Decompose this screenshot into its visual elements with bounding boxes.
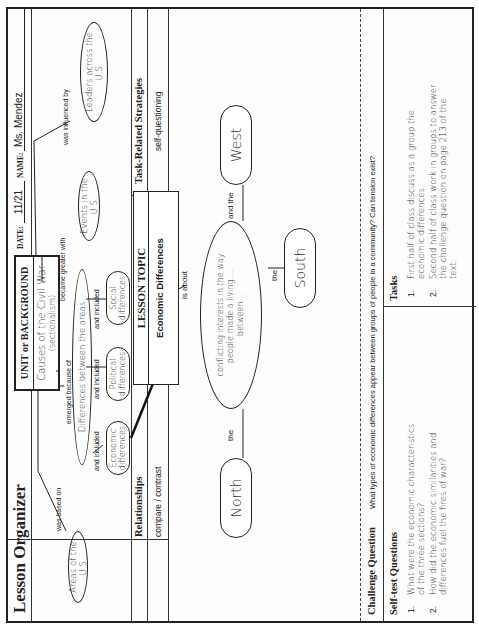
lesson-topic-box: LESSON TOPIC Economic Differences	[133, 191, 179, 385]
node-leaders-across-us: Leaders across the U.S.	[80, 22, 108, 122]
node-events-in-us: Events in the U.S.	[78, 171, 100, 241]
challenge-label: Challenge Question	[366, 527, 377, 615]
link-and-included-3: and included	[93, 289, 100, 329]
link-was-based-on: was based on	[55, 488, 62, 531]
link-is-about: is about	[180, 271, 189, 299]
link-and-included-1: and included	[93, 431, 100, 471]
strategies-label: Task-Related Strategies	[133, 78, 144, 184]
self-test-item: 2. How did the economic similarities and…	[428, 313, 448, 613]
node-areas-of-us: Areas of the U.S.	[68, 531, 88, 603]
tasks-list: 1. First half of class discuss as a grou…	[406, 9, 458, 297]
tasks-label: Tasks	[388, 276, 399, 301]
node-north: North	[220, 458, 252, 538]
lesson-topic-label: LESSON TOPIC	[134, 192, 149, 384]
relationships-value: compare / contrast	[153, 467, 163, 537]
node-political-differences: Political differences	[106, 347, 130, 401]
node-south: South	[284, 228, 316, 308]
link-and-the-west: and the	[226, 192, 235, 219]
task-item: 1. First half of class discuss as a grou…	[406, 9, 426, 297]
relationships-label: Relationships	[133, 476, 144, 537]
node-social-differences: Social differences	[106, 271, 130, 325]
node-economic-differences: Economic differences	[106, 421, 130, 475]
link-became-greater-with: became greater with	[59, 238, 66, 301]
link-was-influenced-by: was influenced by	[62, 89, 69, 145]
self-test-list: 1. What were the economic characteristic…	[406, 313, 448, 613]
node-differences-between-areas: Differences between the areas	[72, 269, 92, 465]
lesson-organizer-page: Lesson Organizer UNIT or BACKGROUND Caus…	[6, 7, 474, 623]
link-emerged-because-of: emerged because of	[65, 360, 72, 424]
task-item: 2. Second half of class work in groups t…	[428, 9, 458, 297]
lesson-topic-value: Economic Differences	[154, 192, 165, 384]
self-test-label: Self-test Questions	[388, 532, 399, 615]
link-and-included-2: and included	[93, 359, 100, 399]
challenge-text: What types of economic differences appea…	[368, 156, 377, 509]
self-test-item: 1. What were the economic characteristic…	[406, 313, 426, 613]
node-conflicting-interests: conflicting interests in the way people …	[200, 221, 262, 409]
strategies-value: self-questioning	[153, 91, 163, 151]
node-west: West	[220, 105, 252, 185]
link-the-north: the	[226, 430, 235, 441]
link-the-south: the	[270, 270, 279, 281]
